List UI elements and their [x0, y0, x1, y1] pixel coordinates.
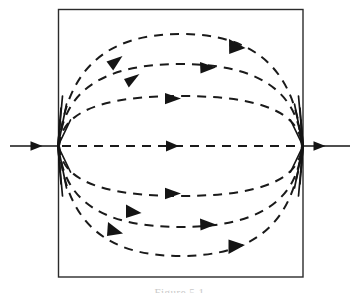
trajectory-arrow-upper-2-b-icon [200, 62, 216, 74]
trajectory-arrow-lower-1-a-icon [165, 188, 181, 199]
trajectory-arrow-center-icon [166, 141, 179, 152]
axis-arrow-left-icon [31, 141, 43, 151]
trajectory-arc-upper-1 [59, 96, 302, 146]
trajectory-arc-lower-3 [59, 146, 302, 256]
phase-portrait-svg [0, 0, 359, 293]
trajectory-arc-upper-3 [59, 34, 302, 146]
trajectory-center-group [62, 141, 299, 152]
figure-root: Figure 5.1 [0, 0, 359, 293]
trajectory-arc-upper-2 [59, 64, 302, 146]
trajectory-arrow-upper-1-a-icon [165, 93, 181, 104]
figure-caption: Figure 5.1 [0, 279, 359, 293]
trajectory-arrow-upper-3-b-icon [229, 39, 246, 54]
trajectory-arrow-lower-2-b-icon [200, 219, 216, 231]
trajectories-above-group [59, 34, 302, 146]
trajectories-below-group [59, 146, 302, 256]
trajectory-arrow-upper-2-a-icon [124, 74, 140, 88]
axis-arrow-right-icon [314, 141, 326, 151]
trajectory-arrow-lower-2-a-icon [126, 205, 142, 219]
trajectory-arrow-lower-3-b-icon [229, 240, 246, 255]
figure-frame [59, 10, 304, 278]
trajectory-arrow-lower-3-a-icon [107, 222, 123, 236]
trajectory-arc-lower-1 [59, 146, 302, 196]
trajectory-arrow-upper-3-a-icon [107, 56, 123, 71]
